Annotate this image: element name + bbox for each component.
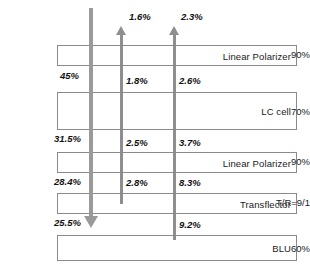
pct-incoming-31-5: 31.5%	[54, 133, 81, 144]
pct-blu-up-2-3: 2.3%	[181, 11, 203, 22]
blu-emission-arrowhead-icon	[169, 26, 179, 35]
pct-transflector-up-1-8: 1.8%	[126, 75, 148, 86]
diagram-canvas: Linear Polarizer LC cell Linear Polarize…	[0, 0, 310, 270]
pct-blu-up-8-3: 8.3%	[179, 177, 201, 188]
pct-transflector-up-1-6: 1.6%	[129, 11, 151, 22]
pct-incoming-45: 45%	[60, 70, 79, 81]
efficiency-label-lc-cell: 70%	[258, 106, 310, 117]
pct-blu-up-9-2: 9.2%	[179, 219, 201, 230]
transflector-reflection-arrowhead-icon	[116, 26, 126, 35]
efficiency-label-transflector: T/R=9/1	[256, 197, 310, 208]
efficiency-label-linear-polarizer-bottom: 90%	[258, 156, 310, 167]
incoming-light-arrowhead-icon	[84, 216, 98, 228]
efficiency-label-blu: 60%	[258, 243, 310, 254]
pct-transflector-up-2-8: 2.8%	[126, 177, 148, 188]
pct-blu-up-2-6: 2.6%	[179, 75, 201, 86]
pct-transflector-up-2-5: 2.5%	[126, 137, 148, 148]
pct-incoming-25-5: 25.5%	[54, 217, 81, 228]
pct-blu-up-3-7: 3.7%	[179, 137, 201, 148]
pct-incoming-28-4: 28.4%	[54, 176, 81, 187]
efficiency-label-linear-polarizer-top: 90%	[258, 49, 310, 60]
incoming-light-path-line	[89, 8, 93, 219]
